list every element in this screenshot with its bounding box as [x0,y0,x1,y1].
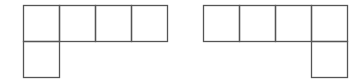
net-square [132,6,168,42]
net-square [24,6,60,42]
net-square [312,6,348,42]
right-net [204,6,348,78]
net-square [276,6,312,42]
net-square [60,6,96,42]
net-square [312,42,348,78]
net-square [96,6,132,42]
net-square [240,6,276,42]
net-square [24,42,60,78]
net-square [204,6,240,42]
nets-canvas [0,0,364,84]
left-net [24,6,168,78]
